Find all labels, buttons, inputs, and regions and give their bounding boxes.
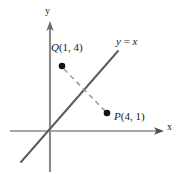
line-equation-rhs: x	[133, 35, 138, 47]
point-label-q-coords: (1, 4)	[59, 41, 83, 53]
identity-line	[21, 51, 118, 162]
point-marker-q	[59, 63, 66, 70]
point-marker-p	[104, 110, 111, 117]
point-label-q-symbol: Q	[51, 41, 59, 53]
point-label-p-coords: (4, 1)	[121, 110, 145, 122]
x-axis-label: x	[167, 122, 172, 132]
point-label-q: Q(1, 4)	[51, 42, 83, 53]
point-label-p-symbol: P	[114, 110, 121, 122]
point-label-p: P(4, 1)	[114, 111, 145, 122]
x-axis	[10, 127, 164, 135]
y-axis-label: y	[45, 6, 50, 16]
line-equation-label: y = x	[116, 36, 138, 47]
line-equation-operator: =	[121, 35, 133, 47]
coordinate-plane-figure: Q(1, 4) P(4, 1) y = x y x	[0, 0, 179, 174]
figure-canvas	[0, 0, 179, 174]
